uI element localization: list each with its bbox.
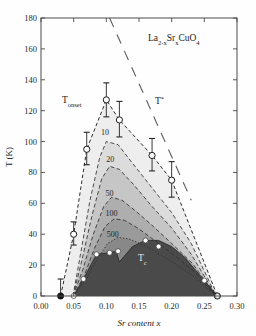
contour-label-100: 100 [106, 209, 118, 218]
label-t-onset-affix: onset [68, 101, 82, 108]
compound-formula: La2-xSrxCuO4 [148, 33, 200, 46]
phase-diagram-svg: 1020501005000.000.050.100.150.200.250.30… [0, 0, 256, 336]
formula-cuo: CuO [178, 33, 196, 43]
y-tick-label: 20 [29, 260, 38, 270]
data-point-open[interactable] [71, 231, 77, 237]
y-tick-label: 140 [24, 75, 37, 85]
x-axis-label: Sr content x [118, 318, 161, 328]
x-tick-label: 0.15 [132, 301, 147, 311]
y-tick-label: 180 [24, 13, 37, 23]
x-tick-label: 0.00 [34, 301, 49, 311]
label-t-star-affix: * [161, 95, 164, 102]
data-point-tc[interactable] [156, 244, 161, 249]
data-point-tc[interactable] [116, 249, 121, 254]
data-point-open[interactable] [169, 177, 175, 183]
data-point-open[interactable] [116, 117, 122, 123]
data-point-tc[interactable] [107, 250, 112, 255]
y-tick-label: 160 [24, 44, 37, 54]
label-tc-affix: c [144, 259, 147, 266]
x-axis-label-italic: x [156, 318, 161, 328]
y-tick-label: 40 [29, 229, 38, 239]
y-tick-label: 80 [29, 167, 38, 177]
y-axis-label: T (K) [4, 147, 14, 167]
label-t-onset: Tonset [62, 95, 82, 108]
contour-label-20: 20 [106, 155, 114, 164]
label-t-star: T* [155, 95, 164, 107]
x-axis-label-main: Sr content [118, 318, 157, 328]
x-tick-label: 0.30 [230, 301, 245, 311]
contour-label-500: 500 [107, 230, 119, 239]
data-point-tc[interactable] [94, 252, 99, 257]
x-tick-label: 0.25 [197, 301, 212, 311]
data-point-open[interactable] [84, 146, 90, 152]
data-point-tc[interactable] [143, 238, 148, 243]
y-tick-label: 0 [33, 291, 37, 301]
x-tick-label: 0.20 [164, 301, 179, 311]
data-point-open[interactable] [149, 152, 155, 158]
y-tick-label: 120 [24, 106, 37, 116]
phase-diagram-figure: 1020501005000.000.050.100.150.200.250.30… [0, 0, 256, 336]
formula-sub-4: 4 [196, 39, 200, 46]
data-point-tc[interactable] [81, 277, 86, 282]
contour-label-50: 50 [106, 189, 114, 198]
data-point-open[interactable] [103, 97, 109, 103]
y-tick-label: 100 [24, 137, 37, 147]
data-point-tc[interactable] [202, 278, 207, 283]
x-tick-label: 0.10 [99, 301, 114, 311]
contour-label-10: 10 [101, 128, 109, 137]
y-tick-label: 60 [29, 198, 38, 208]
x-tick-label: 0.05 [66, 301, 81, 311]
